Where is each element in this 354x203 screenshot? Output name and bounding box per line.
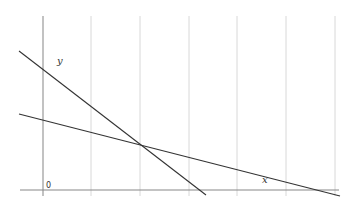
origin-label: 0 bbox=[46, 181, 51, 190]
diagram-canvas: y x 0 bbox=[0, 0, 354, 203]
y-line bbox=[19, 51, 206, 195]
x-line-label: x bbox=[262, 174, 268, 185]
x-line bbox=[19, 114, 340, 196]
gridlines bbox=[91, 16, 335, 196]
y-line-label: y bbox=[56, 55, 63, 66]
